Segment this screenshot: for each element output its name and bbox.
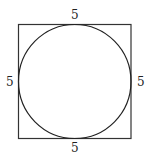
left-side-length-label: 5 <box>6 76 14 88</box>
inscribed-circle <box>19 25 132 139</box>
inscribed-circle-diagram: 5 5 5 5 <box>0 0 151 161</box>
top-side-length-label: 5 <box>71 9 79 21</box>
diagram-canvas <box>0 0 151 161</box>
right-side-length-label: 5 <box>137 76 145 88</box>
bottom-side-length-label: 5 <box>71 142 79 154</box>
